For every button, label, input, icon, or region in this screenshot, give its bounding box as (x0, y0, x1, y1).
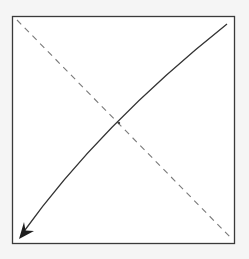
square-frame (13, 17, 235, 244)
intersection-point (118, 122, 120, 124)
diagram-canvas (0, 0, 249, 259)
